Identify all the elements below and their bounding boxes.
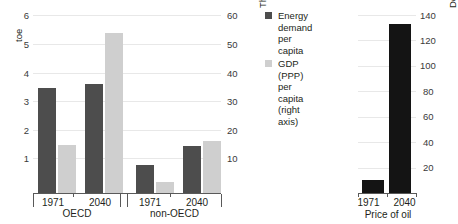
bar-nonoecd-1971-gdp <box>156 182 174 193</box>
chart-legend: Energy demand per capita GDP (PPP) per c… <box>265 10 335 105</box>
left-axis-tick-3: 3 <box>17 97 29 107</box>
left-chart-panel: toe 6 5 4 3 2 1 <box>0 0 260 224</box>
oil-axis-tick-20: 20 <box>423 163 434 173</box>
bar-oecd-2040-gdp <box>105 33 123 193</box>
legend-label-gdp-ppp: GDP (PPP) per capita (right axis) <box>278 58 303 127</box>
oil-chart-xlabel-1971: 1971 <box>352 197 385 208</box>
group-bracket-oecd <box>33 194 121 207</box>
right-axis-tick-30: 30 <box>227 97 238 107</box>
oil-chart-group-label: Price of oil <box>350 209 426 220</box>
bar-nonoecd-2040-energy <box>183 146 201 193</box>
bar-nonoecd-2040-gdp <box>203 141 221 193</box>
oil-axis-tick-100: 100 <box>420 61 436 71</box>
oil-chart-xlabel-2040: 2040 <box>388 197 421 208</box>
bar-oecd-1971-gdp <box>58 145 76 193</box>
legend-swatch-dark-icon <box>265 12 272 19</box>
oil-axis-tick-40: 40 <box>423 138 434 148</box>
bar-oecd-1971-energy <box>38 88 56 193</box>
right-axis-tick-20: 20 <box>227 126 238 136</box>
group-bracket-nonoecd <box>127 194 222 207</box>
left-axis-tick-1: 1 <box>17 154 29 164</box>
bar-oecd-2040-energy <box>85 84 103 193</box>
oil-axis-tick-120: 120 <box>420 36 436 46</box>
left-axis-tick-6: 6 <box>17 11 29 21</box>
legend-swatch-light-icon <box>265 60 272 67</box>
oil-price-chart-panel: 1971 2040 Price of oil 140 120 100 80 60… <box>350 0 455 224</box>
left-axis-tick-5: 5 <box>17 40 29 50</box>
left-chart-y2-axis-title: Thousand dollars (2013) <box>258 0 268 8</box>
right-axis-tick-40: 40 <box>227 69 238 79</box>
right-axis-tick-50: 50 <box>227 40 238 50</box>
right-axis-tick-60: 60 <box>227 11 238 21</box>
group-label-oecd: OECD <box>33 208 121 219</box>
group-label-nonoecd: non-OECD <box>127 208 222 219</box>
left-axis-tick-2: 2 <box>17 126 29 136</box>
bar-nonoecd-1971-energy <box>136 165 154 193</box>
right-axis-tick-10: 10 <box>227 154 238 164</box>
oil-axis-tick-80: 80 <box>423 87 434 97</box>
oil-chart-y2-axis-title: Dollars per barrel (2013) <box>448 0 458 8</box>
legend-label-energy-demand: Energy demand per capita <box>278 10 312 56</box>
bar-oil-1971 <box>362 180 384 193</box>
oil-axis-tick-140: 140 <box>420 11 436 21</box>
left-axis-tick-4: 4 <box>17 69 29 79</box>
oil-axis-tick-60: 60 <box>423 112 434 122</box>
bar-oil-2040 <box>389 24 411 193</box>
